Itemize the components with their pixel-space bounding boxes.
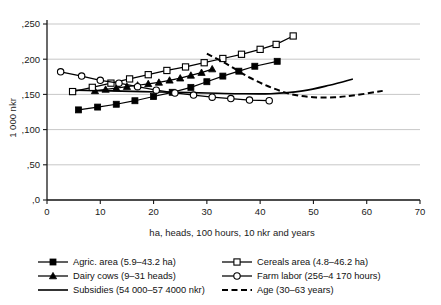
- marker-filled-square: [113, 101, 119, 107]
- marker-filled-square: [95, 104, 101, 110]
- marker-filled-square: [188, 84, 194, 90]
- marker-filled-square: [274, 58, 280, 64]
- x-tick-label: 20: [148, 206, 159, 217]
- legend-item-label: Dairy cows (9–31 heads): [73, 271, 176, 281]
- marker-filled-square: [132, 98, 138, 104]
- marker-open-square: [126, 76, 132, 82]
- marker-open-square: [108, 80, 114, 86]
- marker-open-circle: [266, 98, 272, 104]
- y-tick-label: ,250: [22, 18, 41, 29]
- marker-open-square: [201, 60, 207, 66]
- legend-item-label: Age (30–63 years): [257, 285, 334, 295]
- y-axis-title: 1 000 nkr: [7, 98, 18, 138]
- marker-filled-square: [75, 107, 81, 113]
- marker-open-circle: [116, 80, 122, 86]
- marker-open-circle: [228, 95, 234, 101]
- marker-open-square: [89, 84, 95, 90]
- legend-item-label: Subsidies (54 000–57 4000 nkr): [73, 285, 205, 295]
- chart-background: [0, 0, 441, 305]
- x-tick-label: 10: [95, 206, 106, 217]
- y-tick-label: ,100: [22, 124, 41, 135]
- marker-open-square: [164, 67, 170, 73]
- marker-open-circle: [78, 73, 84, 79]
- legend-item-label: Farm labor (256–4 170 hours): [257, 271, 381, 281]
- legend-item-label: Cereals area (4.8–46.2 ha): [257, 257, 368, 267]
- marker-filled-square: [220, 73, 226, 79]
- marker-open-square: [238, 51, 244, 57]
- marker-open-circle: [153, 87, 159, 93]
- marker-open-circle: [190, 92, 196, 98]
- x-tick-label: 70: [415, 206, 426, 217]
- y-tick-label: ,150: [22, 89, 41, 100]
- marker-open-circle: [57, 69, 63, 75]
- marker-open-circle: [172, 90, 178, 96]
- y-tick-label: ,50: [27, 159, 40, 170]
- y-tick-label: ,0: [32, 194, 40, 205]
- marker-open-square: [257, 46, 263, 52]
- marker-open-square: [290, 33, 296, 39]
- x-tick-label: 30: [202, 206, 213, 217]
- marker-open-square: [69, 88, 75, 94]
- marker-open-square: [145, 72, 151, 78]
- x-tick-label: 40: [255, 206, 266, 217]
- marker-open-circle: [209, 94, 215, 100]
- marker-filled-square: [151, 94, 157, 100]
- x-tick-label: 60: [361, 206, 372, 217]
- marker-open-square: [182, 64, 188, 70]
- x-tick-label: 0: [44, 206, 49, 217]
- x-axis-title: ha, heads, 100 hours, 10 nkr and years: [149, 227, 315, 238]
- marker-filled-square: [252, 63, 258, 69]
- marker-filled-square: [204, 79, 210, 85]
- y-tick-label: ,200: [22, 54, 41, 65]
- marker-filled-square: [50, 259, 56, 265]
- marker-open-square: [273, 41, 279, 47]
- chart-container: ,0,50,100,150,200,250 010203040506070 1 …: [0, 0, 441, 305]
- marker-open-circle: [234, 273, 240, 279]
- line-chart: ,0,50,100,150,200,250 010203040506070 1 …: [0, 0, 441, 305]
- marker-open-circle: [246, 97, 252, 103]
- legend-item-label: Agric. area (5.9–43.2 ha): [73, 257, 176, 267]
- marker-open-circle: [134, 83, 140, 89]
- marker-open-circle: [97, 77, 103, 83]
- marker-open-square: [234, 259, 240, 265]
- x-tick-label: 50: [308, 206, 319, 217]
